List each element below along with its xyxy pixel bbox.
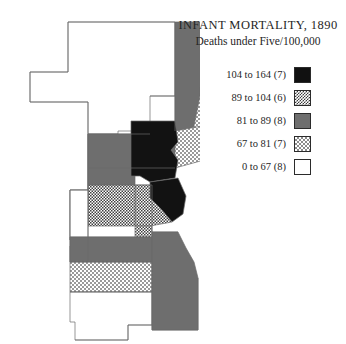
legend-swatch-81-89 bbox=[294, 113, 311, 129]
legend-swatch-89-104 bbox=[294, 90, 311, 106]
legend-item-label: 0 to 67 (8) bbox=[178, 161, 294, 172]
legend-item-label: 81 to 89 (8) bbox=[178, 115, 294, 126]
legend-item-label: 67 to 81 (7) bbox=[178, 138, 294, 149]
map-area-far-south bbox=[70, 292, 152, 340]
legend-list: 104 to 164 (7) 89 to 104 (6) 81 to 89 (8… bbox=[176, 63, 346, 178]
map-svg bbox=[0, 0, 200, 344]
legend-item: 0 to 67 (8) bbox=[178, 155, 346, 178]
legend-panel: INFANT MORTALITY, 1890 Deaths under Five… bbox=[176, 18, 346, 178]
map-area-west-inner bbox=[88, 185, 135, 226]
map-area-southeast-lakefront bbox=[152, 232, 198, 330]
legend-item: 89 to 104 (6) bbox=[178, 86, 346, 109]
legend-swatch-0-67 bbox=[294, 159, 311, 175]
choropleth-map bbox=[0, 0, 200, 344]
map-area-south-sliver bbox=[135, 226, 152, 237]
map-area-south-central bbox=[70, 262, 152, 292]
legend-item: 67 to 81 (7) bbox=[178, 132, 346, 155]
map-area-far-northwest bbox=[30, 22, 175, 134]
legend-swatch-104-164 bbox=[294, 67, 311, 83]
map-subtitle: Deaths under Five/100,000 bbox=[176, 34, 340, 49]
title-block: INFANT MORTALITY, 1890 Deaths under Five… bbox=[176, 18, 346, 49]
map-area-near-west-core bbox=[131, 121, 178, 182]
legend-swatch-67-81 bbox=[294, 136, 311, 152]
infant-mortality-map-figure: INFANT MORTALITY, 1890 Deaths under Five… bbox=[0, 0, 346, 344]
legend-item: 81 to 89 (8) bbox=[178, 109, 346, 132]
legend-item: 104 to 164 (7) bbox=[178, 63, 346, 86]
map-title: INFANT MORTALITY, 1890 bbox=[176, 18, 340, 33]
legend-item-label: 89 to 104 (6) bbox=[178, 92, 294, 103]
legend-item-label: 104 to 164 (7) bbox=[178, 69, 294, 80]
map-area-south-band bbox=[70, 237, 152, 262]
